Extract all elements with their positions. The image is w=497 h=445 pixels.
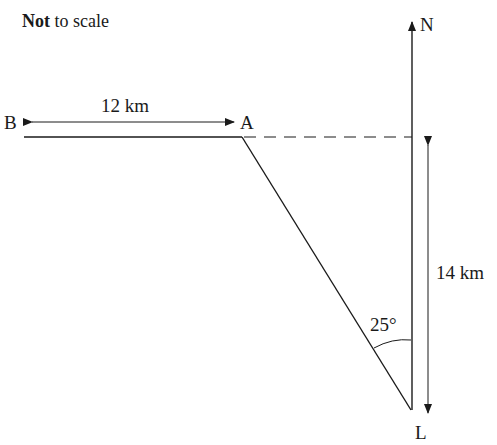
label-angle: 25° [370,315,397,334]
label-14km: 14 km [436,263,484,282]
bearing-diagram [0,0,497,445]
label-12km: 12 km [101,96,149,115]
label-b: B [4,113,17,132]
label-l: L [415,423,427,442]
label-a: A [240,113,254,132]
label-n: N [420,15,434,34]
line-al [242,137,411,410]
angle-arc [374,340,411,348]
